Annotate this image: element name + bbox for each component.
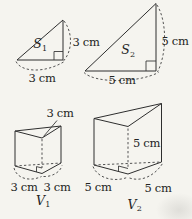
v1-prism bbox=[14, 121, 62, 180]
s2-height-dimension: 5 cm bbox=[161, 36, 188, 48]
s1-letter: S bbox=[33, 36, 41, 51]
v2-base-right-dimension: 5 cm bbox=[144, 183, 171, 195]
s1-base-dimension-arc bbox=[16, 62, 64, 71]
v2-subscript: 2 bbox=[137, 204, 142, 213]
s2-base-dimension: 5 cm bbox=[108, 75, 135, 87]
v1-letter: V bbox=[36, 192, 45, 207]
v1-figure-label: V1 bbox=[36, 194, 50, 209]
v2-figure-label: V2 bbox=[127, 198, 141, 213]
s2-letter: S bbox=[121, 42, 129, 57]
v1-base-right-dimension: 3 cm bbox=[43, 182, 70, 194]
v1-top-left-edge bbox=[15, 131, 42, 138]
v1-right-angle-mark bbox=[37, 167, 43, 172]
v1-bottom-hidden-edge bbox=[15, 163, 61, 166]
v2-base-left-dimension: 5 cm bbox=[84, 182, 111, 194]
s1-figure-label: S1 bbox=[33, 38, 47, 53]
s2-figure-label: S2 bbox=[121, 44, 135, 59]
v2-bottom-right-edge bbox=[128, 162, 162, 174]
s1-base-dimension: 3 cm bbox=[28, 73, 55, 85]
s1-height-dimension: 3 cm bbox=[72, 37, 99, 49]
s1-height-dimension-arc bbox=[64, 21, 71, 61]
s2-right-angle-mark bbox=[146, 61, 156, 71]
s1-subscript: 1 bbox=[42, 43, 47, 52]
s2-subscript: 2 bbox=[130, 49, 135, 58]
v2-right-angle-mark bbox=[119, 166, 129, 172]
v2-bottom-left-edge bbox=[94, 165, 128, 174]
v2-height-dimension: 5 cm bbox=[133, 138, 160, 150]
v1-height-leader-line bbox=[44, 121, 58, 137]
v2-base-left-dimension-arc bbox=[93, 167, 127, 180]
v2-letter: V bbox=[127, 196, 136, 211]
v1-base-left-dimension: 3 cm bbox=[10, 182, 37, 194]
v1-height-dimension: 3 cm bbox=[46, 108, 73, 120]
textbook-figure: S1 3 cm 3 cm S2 5 cm 5 cm 3 cm 3 cm 3 cm… bbox=[0, 0, 192, 219]
v1-subscript: 1 bbox=[45, 200, 50, 209]
s1-right-angle-mark bbox=[54, 52, 63, 61]
v2-top-left-edge bbox=[94, 119, 128, 127]
